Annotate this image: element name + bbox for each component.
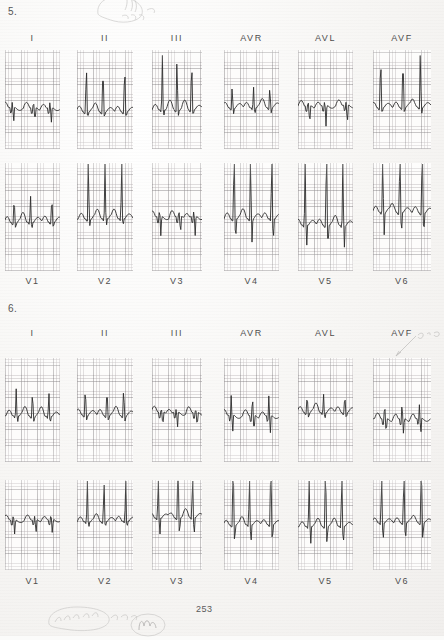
ecg-waveform-avl <box>298 50 353 149</box>
lead-label-avf: AVF <box>373 33 431 43</box>
ecg-waveform-avf <box>373 50 431 149</box>
ecg-strip-v1 <box>5 163 60 271</box>
ecg-waveform-avl <box>298 358 353 462</box>
lead-label-ii: II <box>77 328 133 338</box>
ecg-waveform-iii <box>152 358 202 462</box>
lead-label-v5: V5 <box>298 276 353 286</box>
ecg-waveform-iii <box>152 50 202 149</box>
lead-label-v5: V5 <box>298 576 353 586</box>
ecg-strip-avl <box>298 50 353 149</box>
lead-label-v2: V2 <box>77 576 133 586</box>
ecg-strip-avf <box>373 358 431 462</box>
lead-label-v3: V3 <box>152 576 202 586</box>
ecg-waveform-i <box>5 358 60 462</box>
ecg-strip-v4 <box>224 163 279 271</box>
page-number: 253 <box>196 604 213 614</box>
ecg-strip-v3 <box>152 163 202 271</box>
ecg-waveform-v3 <box>152 480 202 570</box>
ecg-strip-v5 <box>298 163 353 271</box>
ecg-waveform-v4 <box>224 163 279 271</box>
ecg-waveform-v5 <box>298 163 353 271</box>
lead-label-iii: III <box>152 33 202 43</box>
lead-label-v6: V6 <box>373 576 431 586</box>
ecg-waveform-i <box>5 50 60 149</box>
ecg-waveform-v2 <box>77 480 133 570</box>
ecg-waveform-v3 <box>152 163 202 271</box>
lead-label-i: I <box>5 33 60 43</box>
ecg-strip-v3 <box>152 480 202 570</box>
item-number-6: 6. <box>8 303 17 314</box>
lead-label-avl: AVL <box>298 33 353 43</box>
ecg-strip-avr <box>224 50 279 149</box>
ecg-waveform-v2 <box>77 163 133 271</box>
lead-label-v3: V3 <box>152 276 202 286</box>
lead-label-avr: AVR <box>224 328 279 338</box>
item-number-5: 5. <box>8 6 17 17</box>
lead-label-avr: AVR <box>224 33 279 43</box>
lead-label-ii: II <box>77 33 133 43</box>
ecg-strip-v5 <box>298 480 353 570</box>
ecg-waveform-ii <box>77 50 133 149</box>
ecg-strip-v6 <box>373 480 431 570</box>
lead-label-v4: V4 <box>224 276 279 286</box>
ecg-waveform-v1 <box>5 480 60 570</box>
ecg-waveform-v6 <box>373 480 431 570</box>
ecg-strip-avf <box>373 50 431 149</box>
ecg-strip-v6 <box>373 163 431 271</box>
lead-label-v1: V1 <box>5 576 60 586</box>
ecg-waveform-avr <box>224 50 279 149</box>
ecg-strip-v1 <box>5 480 60 570</box>
ecg-waveform-v1 <box>5 163 60 271</box>
ecg-waveform-v6 <box>373 163 431 271</box>
ecg-strip-i <box>5 358 60 462</box>
ecg-waveform-v4 <box>224 480 279 570</box>
ecg-strip-v4 <box>224 480 279 570</box>
ecg-strip-ii <box>77 358 133 462</box>
lead-label-avl: AVL <box>298 328 353 338</box>
lead-label-v2: V2 <box>77 276 133 286</box>
lead-label-iii: III <box>152 328 202 338</box>
lead-label-i: I <box>5 328 60 338</box>
ecg-strip-i <box>5 50 60 149</box>
ecg-strip-v2 <box>77 480 133 570</box>
ecg-waveform-avf <box>373 358 431 462</box>
ecg-strip-ii <box>77 50 133 149</box>
lead-label-v4: V4 <box>224 576 279 586</box>
ecg-strip-avr <box>224 358 279 462</box>
lead-label-avf: AVF <box>373 328 431 338</box>
ecg-strip-iii <box>152 50 202 149</box>
lead-label-v1: V1 <box>5 276 60 286</box>
ecg-strip-avl <box>298 358 353 462</box>
ecg-waveform-v5 <box>298 480 353 570</box>
ecg-waveform-avr <box>224 358 279 462</box>
lead-label-v6: V6 <box>373 276 431 286</box>
ecg-strip-iii <box>152 358 202 462</box>
ecg-strip-v2 <box>77 163 133 271</box>
ecg-waveform-ii <box>77 358 133 462</box>
